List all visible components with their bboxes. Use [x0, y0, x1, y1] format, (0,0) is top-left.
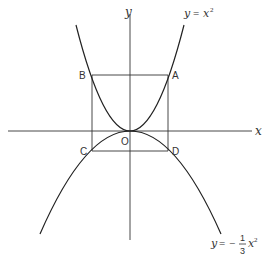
y-axis-label: y — [124, 5, 132, 19]
lower-eq-lhs: y — [210, 237, 218, 250]
upper-eq-var: x — [203, 7, 210, 20]
lower-curve-equation: y = − 1 3 x 2 — [210, 233, 258, 256]
point-b-label: B — [79, 70, 86, 81]
upper-eq-exponent: 2 — [210, 6, 214, 14]
lower-eq-minus: − — [229, 237, 235, 249]
lower-eq-denominator: 3 — [240, 246, 245, 256]
upper-curve-equation: y = x 2 — [183, 6, 214, 20]
lower-eq-equals: = — [219, 237, 225, 249]
point-d-label: D — [172, 146, 179, 157]
point-c-label: C — [80, 146, 87, 157]
upper-eq-equals: = — [193, 7, 199, 19]
point-a-label: A — [172, 70, 179, 81]
upper-eq-lhs: y — [183, 7, 191, 20]
x-axis-label: x — [255, 124, 262, 138]
origin-label: O — [121, 136, 129, 147]
lower-eq-numerator: 1 — [240, 233, 245, 243]
lower-parabola-curve — [40, 131, 221, 234]
lower-eq-exponent: 2 — [254, 236, 258, 244]
parabola-rectangle-diagram: y x O A B C D y = x 2 y = − 1 3 x 2 — [0, 0, 266, 262]
